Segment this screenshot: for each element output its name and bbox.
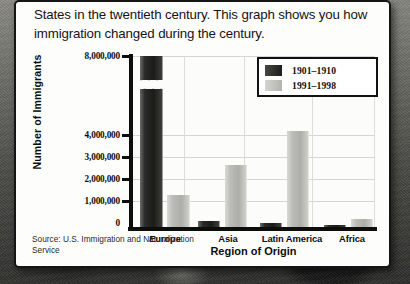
- y-tick-mark-1m: [122, 200, 133, 203]
- y-tick-label-8m: 8,000,000: [58, 51, 120, 61]
- source-note: Source: U.S. Immigration and Naturalizat…: [32, 234, 202, 255]
- legend-label-1901-1910: 1901–1910: [292, 65, 336, 76]
- y-tick-label-4m: 4,000,000: [58, 130, 120, 140]
- legend-swatch-light-icon: [265, 80, 282, 91]
- bar-group-europe: [138, 56, 198, 228]
- y-tick-label-3m: 3,000,000: [58, 152, 120, 162]
- y-tick-mark-8m: [122, 55, 133, 58]
- legend-swatch-dark-icon: [265, 65, 282, 76]
- intro-paragraph: States in the twentieth century. This gr…: [34, 5, 374, 43]
- x-tick-label-asia: Asia: [197, 233, 259, 244]
- legend-item-1901-1910: 1901–1910: [265, 63, 370, 78]
- bar-group-asia: [196, 56, 258, 228]
- bar-europe-1901-1910: [140, 56, 163, 228]
- chart-legend: 1901–1910 1991–1998: [257, 57, 378, 97]
- y-axis-title: Number of Immigrants: [31, 51, 43, 173]
- y-tick-mark-2m: [122, 178, 133, 181]
- bar-asia-1991-1998: [225, 165, 247, 228]
- y-tick-label-1m: 1,000,000: [58, 196, 120, 206]
- legend-item-1991-1998: 1991–1998: [265, 78, 370, 93]
- x-tick-label-latin-america: Latin America: [254, 233, 330, 244]
- bar-latin-america-1991-1998: [287, 131, 309, 228]
- axis-break-marker: [139, 80, 163, 89]
- y-axis-line: [129, 54, 133, 230]
- y-tick-mark-3m: [122, 156, 133, 159]
- y-tick-mark-4m: [122, 134, 133, 137]
- x-axis-line: [128, 227, 377, 231]
- y-axis-tick-labels: 8,000,000 4,000,000 3,000,000 2,000,000 …: [52, 46, 120, 228]
- y-tick-label-0: 0: [58, 218, 120, 228]
- bar-europe-1991-1998: [167, 195, 190, 228]
- textbook-page-card: States in the twentieth century. This gr…: [14, 0, 391, 268]
- y-tick-label-2m: 2,000,000: [58, 174, 120, 184]
- legend-label-1991-1998: 1991–1998: [292, 80, 336, 91]
- x-tick-label-africa: Africa: [324, 233, 380, 244]
